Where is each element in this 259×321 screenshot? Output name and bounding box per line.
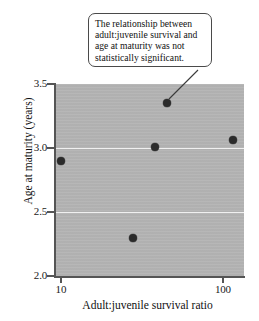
- y-tick-mark: [47, 83, 55, 85]
- y-tick-mark: [47, 211, 55, 213]
- x-tick-mark: [60, 276, 62, 283]
- plot-area: [55, 84, 244, 276]
- annotation-leader-line: [160, 66, 200, 102]
- gridline: [55, 148, 244, 149]
- data-point: [229, 136, 237, 144]
- annotation-callout: The relationship between adult:juvenile …: [88, 13, 212, 67]
- gridline: [55, 212, 244, 213]
- y-tick-mark: [47, 147, 55, 149]
- x-tick-label: 10: [46, 283, 76, 295]
- data-point: [57, 157, 65, 165]
- x-tick-mark: [222, 276, 224, 283]
- x-axis-line: [54, 276, 245, 278]
- x-axis-title: Adult:juvenile survival ratio: [40, 299, 255, 311]
- scatter-plot-figure: 3.53.02.52.0 10100 Age at maturity (year…: [0, 0, 259, 321]
- data-point: [129, 234, 137, 242]
- y-tick-label: 2.0: [21, 269, 47, 281]
- x-tick-label: 100: [208, 283, 238, 295]
- y-axis-title: Age at maturity (years): [22, 76, 34, 226]
- y-axis-line: [54, 83, 56, 277]
- data-point: [151, 143, 159, 151]
- y-tick-mark: [47, 275, 55, 277]
